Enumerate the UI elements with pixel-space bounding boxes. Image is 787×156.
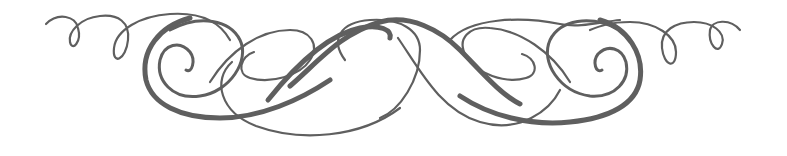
- central-diagonal-left: [268, 27, 390, 100]
- calligraphic-flourish: [0, 0, 787, 156]
- left-inner-loop: [159, 21, 242, 97]
- center-lower-arc: [398, 38, 560, 125]
- left-middle-loop: [210, 30, 314, 82]
- right-big-loop: [460, 20, 641, 123]
- central-s-curve: [290, 20, 520, 104]
- right-inner-loop: [547, 21, 626, 96]
- flourish-right-half: [450, 20, 740, 123]
- flourish-left-half: [46, 14, 400, 135]
- left-lower-sweep: [221, 62, 400, 135]
